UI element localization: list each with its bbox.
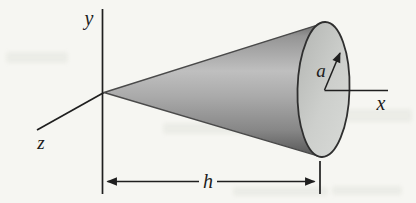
cone-figure: y z x a h <box>0 0 416 203</box>
cone-lateral-surface <box>104 23 325 157</box>
height-label: h <box>203 170 213 192</box>
figure-canvas: y z x a h <box>0 0 416 203</box>
z-axis-label: z <box>36 132 45 153</box>
x-axis-label: x <box>376 92 386 114</box>
radius-label: a <box>316 60 326 81</box>
y-axis-label: y <box>83 7 94 30</box>
z-axis-line <box>37 93 104 131</box>
